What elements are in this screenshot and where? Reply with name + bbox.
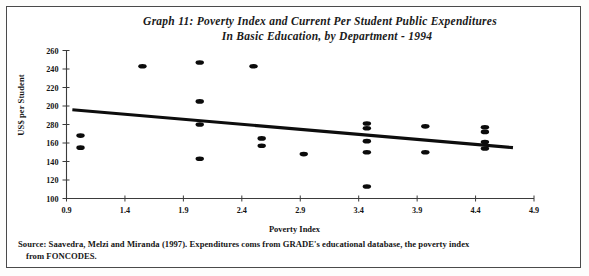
x-tick-label: 0.9 — [61, 206, 71, 215]
x-tick-label: 4.9 — [529, 206, 539, 215]
y-tick-label: 120 — [46, 176, 58, 185]
y-tick-label: 100 — [46, 195, 58, 204]
data-point — [421, 150, 429, 155]
data-point — [363, 150, 371, 155]
x-tick-label: 2.9 — [295, 206, 305, 215]
data-point — [249, 64, 257, 69]
x-tick-label: 4.4 — [470, 206, 480, 215]
x-tick-label: 1.4 — [120, 206, 130, 215]
source-note: Source: Saavedra, Melzi and Miranda (199… — [18, 239, 566, 262]
trend-line — [72, 110, 513, 148]
y-tick-label: 260 — [46, 47, 58, 56]
data-point — [196, 156, 204, 161]
y-tick-label: 280 — [46, 121, 58, 130]
data-point — [363, 126, 371, 131]
x-tick-label: 2.4 — [237, 206, 247, 215]
data-point — [363, 139, 371, 144]
y-tick-label: 140 — [46, 158, 58, 167]
plot-svg: 260240220200280160140120100 0.91.41.92.4… — [0, 0, 589, 276]
data-points — [76, 60, 489, 189]
data-point — [76, 133, 84, 138]
data-point — [138, 64, 146, 69]
data-point — [76, 145, 84, 150]
source-note-line-2: from FONCODES. — [18, 251, 566, 263]
data-point — [257, 143, 265, 148]
data-point — [196, 122, 204, 127]
data-point — [196, 99, 204, 104]
data-point — [363, 121, 371, 126]
x-tick-label: 3.9 — [412, 206, 422, 215]
figure-container: Graph 11: Poverty Index and Current Per … — [0, 0, 589, 276]
x-tick-label: 3.4 — [354, 206, 364, 215]
x-tick-label: 1.9 — [178, 206, 188, 215]
y-tick-label: 200 — [46, 102, 58, 111]
source-note-line-1: Source: Saavedra, Melzi and Miranda (199… — [18, 239, 469, 249]
data-point — [300, 152, 308, 157]
data-point — [257, 136, 265, 141]
y-tick-label: 240 — [46, 65, 58, 74]
y-tick-label: 160 — [46, 139, 58, 148]
data-point — [363, 184, 371, 189]
data-point — [481, 130, 489, 135]
data-point — [421, 124, 429, 129]
y-tick-label: 220 — [46, 84, 58, 93]
data-point — [481, 125, 489, 130]
data-point — [196, 60, 204, 65]
scatter-plot: 260240220200280160140120100 0.91.41.92.4… — [0, 0, 589, 276]
